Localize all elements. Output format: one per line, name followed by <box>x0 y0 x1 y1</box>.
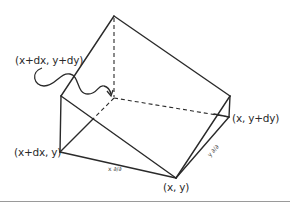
squiggle-arrow-icon <box>35 68 111 94</box>
hidden-edge-diagonal <box>93 98 114 119</box>
edge-left-vertical <box>60 96 61 152</box>
bottom-rule <box>0 201 290 202</box>
label-right-corner: (x, y+dy) <box>232 112 279 124</box>
hidden-edge-back <box>114 98 229 117</box>
edge-right-front <box>176 96 230 178</box>
label-edge-x: x ∂/∂ <box>108 165 122 172</box>
edge-right-vertical <box>229 96 230 117</box>
wedge-diagram <box>0 0 290 208</box>
label-left-corner: (x+dx, y) <box>14 146 61 158</box>
edge-inner-diagonal <box>60 119 93 152</box>
edge-right-bottom <box>176 117 229 178</box>
label-bottom-corner: (x, y) <box>163 181 189 193</box>
edge-top-right <box>114 16 230 96</box>
label-top-back-corner: (x+dx, y+dy) <box>15 54 83 66</box>
